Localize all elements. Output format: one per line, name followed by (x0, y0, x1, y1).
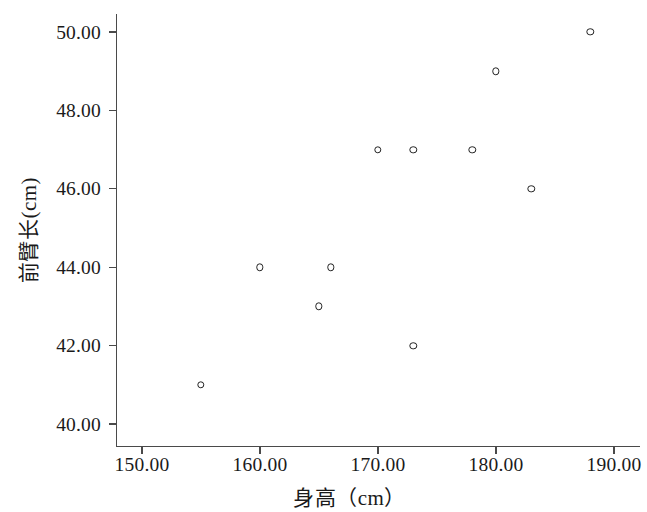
x-axis-tick (613, 447, 614, 454)
y-axis-tick-label: 40.00 (56, 415, 101, 435)
data-point (469, 146, 476, 153)
data-point (374, 146, 381, 153)
data-point (327, 263, 334, 270)
y-axis-title: 前臂长(cm) (12, 120, 42, 340)
x-axis-title: 身高（cm） (0, 481, 647, 511)
x-axis-tick-label: 190.00 (587, 455, 642, 475)
y-axis-tick (109, 110, 116, 111)
y-axis-tick (109, 31, 116, 32)
data-point (410, 342, 417, 349)
data-point (197, 381, 204, 388)
data-point (587, 28, 594, 35)
x-axis-tick-label: 160.00 (233, 455, 288, 475)
data-points-layer (0, 0, 647, 512)
y-axis-tick (109, 188, 116, 189)
y-axis-tick-label: 42.00 (56, 336, 101, 356)
y-axis-line (116, 14, 117, 447)
x-axis-tick-label: 150.00 (115, 455, 170, 475)
x-axis-tick (377, 447, 378, 454)
data-point (315, 303, 322, 310)
x-axis-tick-label: 170.00 (351, 455, 406, 475)
y-axis-tick-label: 44.00 (56, 258, 101, 278)
y-axis-tick (109, 267, 116, 268)
x-axis-tick-label: 180.00 (469, 455, 524, 475)
x-axis-tick (495, 447, 496, 454)
x-axis-tick (259, 447, 260, 454)
data-point (256, 263, 263, 270)
scatter-plot: 40.0042.0044.0046.0048.0050.00 150.00160… (0, 0, 647, 512)
data-point (410, 146, 417, 153)
x-axis-title-text: 身高（cm） (241, 481, 406, 511)
data-point (528, 185, 535, 192)
y-axis-tick-label: 48.00 (56, 101, 101, 121)
x-axis-tick (141, 447, 142, 454)
y-axis-tick (109, 423, 116, 424)
y-axis-tick (109, 345, 116, 346)
y-axis-tick-label: 50.00 (56, 23, 101, 43)
y-axis-tick-label: 46.00 (56, 179, 101, 199)
data-point (492, 67, 499, 74)
